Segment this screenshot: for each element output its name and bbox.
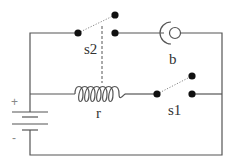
s2-top-node [111, 11, 118, 18]
bulb-b: b [160, 22, 181, 67]
circuit-diagram: s2 b r s1 + - [0, 0, 235, 161]
bulb-icon [170, 28, 181, 39]
s1-right-node [188, 90, 195, 97]
bulb-label: b [169, 51, 177, 67]
coil-icon [75, 87, 125, 102]
s2-contact-link [78, 15, 115, 33]
battery-plus-sign: + [11, 95, 18, 109]
switch-s2: s2 [74, 11, 118, 57]
s1-contact-link [157, 76, 192, 94]
s2-right-node [111, 29, 118, 36]
coil-r: r [75, 87, 125, 122]
s2-label: s2 [84, 41, 97, 57]
battery-minus-sign: - [12, 131, 16, 145]
s1-top-node [188, 72, 195, 79]
switch-s1: s1 [153, 72, 195, 118]
s2-left-node [74, 29, 81, 36]
s1-label: s1 [168, 102, 181, 118]
s1-left-node [153, 90, 160, 97]
coil-label: r [96, 105, 101, 121]
wire-left-top [30, 33, 78, 112]
